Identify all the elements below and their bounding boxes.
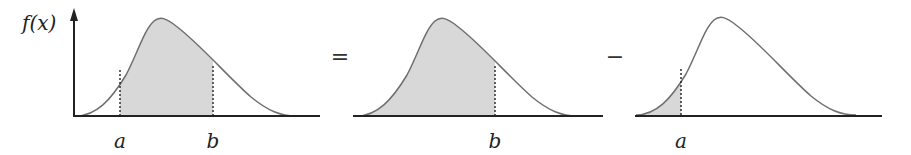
panel-cumulative-up-to-a: a	[635, 17, 882, 153]
y-axis-label: f(x)	[20, 11, 56, 35]
y-axis-arrow-icon	[70, 8, 78, 21]
probability-area-diagram: f(x) a b = b − a	[0, 0, 911, 155]
panel-cumulative-up-to-b: b	[353, 18, 603, 153]
equals-sign: =	[331, 44, 349, 69]
minus-sign: −	[606, 44, 624, 69]
label-b: b	[489, 129, 502, 153]
label-a: a	[675, 129, 687, 153]
label-b: b	[207, 129, 220, 153]
shaded-area-up-to-b	[357, 18, 577, 116]
panel-interval-a-to-b: a b	[70, 8, 320, 153]
label-a: a	[114, 129, 126, 153]
shaded-area-a-to-b	[76, 18, 296, 116]
shaded-area-up-to-a	[636, 17, 856, 115]
